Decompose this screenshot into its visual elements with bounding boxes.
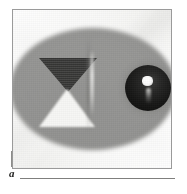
left-tick-mark bbox=[11, 151, 12, 167]
figure-panel-root: a bbox=[0, 0, 187, 194]
image-panel bbox=[12, 9, 172, 169]
caption-rule bbox=[20, 178, 175, 179]
panel-grain-overlay bbox=[13, 10, 171, 168]
panel-letter-label: a bbox=[9, 168, 15, 179]
